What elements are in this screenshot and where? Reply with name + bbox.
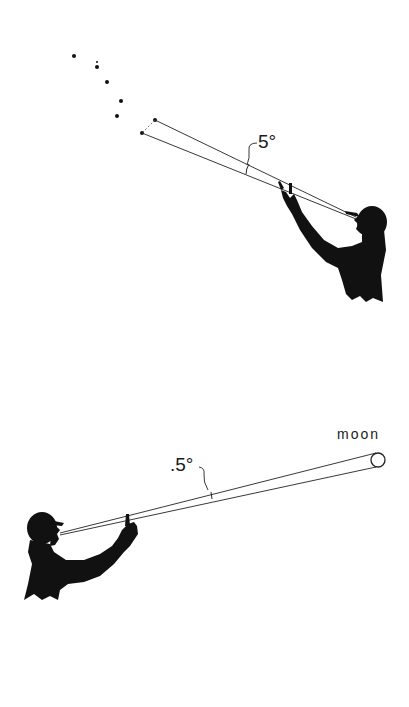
angular-measurement-diagram (0, 0, 409, 707)
angle-label-half-degree: .5° (170, 455, 193, 474)
moon-label: moon (337, 427, 380, 441)
angle-leader-bottom (199, 467, 208, 490)
sight-lines-bottom (60, 453, 376, 535)
star-icon (95, 65, 99, 69)
star-icon (105, 80, 109, 84)
angle-label-five-degrees: 5° (258, 132, 276, 151)
star-icon (119, 99, 123, 103)
star-icon (96, 61, 98, 63)
angle-tick-bottom (211, 492, 212, 499)
pointer-connector (142, 120, 155, 133)
angle-arc-top (246, 164, 249, 174)
observer-silhouette-bottom (24, 512, 138, 600)
star-field (72, 54, 157, 135)
star-icon (72, 54, 76, 58)
bottom-panel (24, 453, 385, 600)
star-icon (115, 114, 119, 118)
moon-icon (371, 453, 385, 467)
observer-silhouette-top (278, 181, 387, 302)
top-panel (72, 54, 387, 302)
sight-lines-top (142, 120, 356, 219)
angle-leader-top (247, 143, 257, 165)
